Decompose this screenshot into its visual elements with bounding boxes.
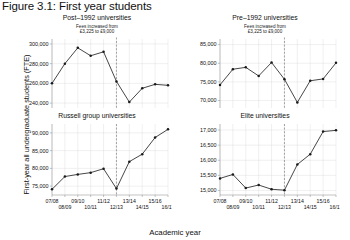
svg-text:17,000: 17,000 [200,127,217,133]
fee-annotation: Fees increased from £3,225 to £9,000 [22,24,172,35]
svg-text:12/13: 12/13 [278,204,291,210]
panel-title: Post–1992 universities [22,14,172,21]
fee-annotation: Fees increased from £3,225 to £9,000 [190,24,340,35]
svg-text:08/09: 08/09 [58,204,71,210]
panel-title: Russell group universities [22,112,172,119]
svg-text:10/11: 10/11 [252,204,265,210]
svg-text:07/08: 07/08 [46,198,59,204]
svg-text:85,000: 85,000 [200,41,217,47]
plot-area-russell-group: 75,00080,00085,00090,00007/0808/0909/101… [22,121,172,217]
svg-text:16,500: 16,500 [200,142,217,148]
svg-text:90,000: 90,000 [32,130,49,136]
svg-text:09/10: 09/10 [71,198,84,204]
fee-annotation-line2: £3,225 to £9,000 [190,29,340,34]
svg-text:14/15: 14/15 [136,204,149,210]
svg-text:240,000: 240,000 [29,100,49,106]
panel-elite: Elite universities 15,00015,50016,00016,… [190,112,340,220]
svg-text:70,000: 70,000 [200,97,217,103]
panel-russell-group: Russell group universities 75,00080,0008… [22,112,172,220]
svg-text:80,000: 80,000 [32,165,49,171]
svg-text:11/12: 11/12 [97,198,110,204]
svg-text:16/17: 16/17 [162,204,172,210]
fee-annotation-line2: £3,225 to £9,000 [22,29,172,34]
svg-text:15,500: 15,500 [200,172,217,178]
svg-text:300,000: 300,000 [29,41,49,47]
svg-text:15,000: 15,000 [200,187,217,193]
plot-area-post-1992: 240,000260,000280,000300,000 [22,36,172,114]
plot-area-pre-1992: 70,00075,00080,00085,000 [190,36,340,114]
panel-pre-1992: Pre–1992 universities Fees increased fro… [190,14,340,114]
svg-text:12/13: 12/13 [110,204,123,210]
svg-text:10/11: 10/11 [84,204,97,210]
x-axis-title: Academic year [0,228,350,237]
svg-text:280,000: 280,000 [29,61,49,67]
svg-text:07/08: 07/08 [214,198,227,204]
svg-text:80,000: 80,000 [200,60,217,66]
svg-text:11/12: 11/12 [265,198,278,204]
svg-text:09/10: 09/10 [239,198,252,204]
svg-text:75,000: 75,000 [200,79,217,85]
svg-text:85,000: 85,000 [32,148,49,154]
panel-title: Pre–1992 universities [190,14,340,21]
svg-text:13/14: 13/14 [123,198,136,204]
svg-text:13/14: 13/14 [291,198,304,204]
svg-text:75,000: 75,000 [32,183,49,189]
svg-text:14/15: 14/15 [304,204,317,210]
svg-text:08/09: 08/09 [226,204,239,210]
plot-area-elite: 15,00015,50016,00016,50017,00007/0808/09… [190,121,340,217]
svg-text:16,000: 16,000 [200,157,217,163]
svg-text:15/16: 15/16 [149,198,162,204]
svg-text:16/17: 16/17 [330,204,340,210]
page-title: Figure 3.1: First year students [2,0,152,12]
svg-text:260,000: 260,000 [29,80,49,86]
panel-post-1992: Post–1992 universities Fees increased fr… [22,14,172,114]
svg-text:15/16: 15/16 [317,198,330,204]
panel-title: Elite universities [190,112,340,119]
